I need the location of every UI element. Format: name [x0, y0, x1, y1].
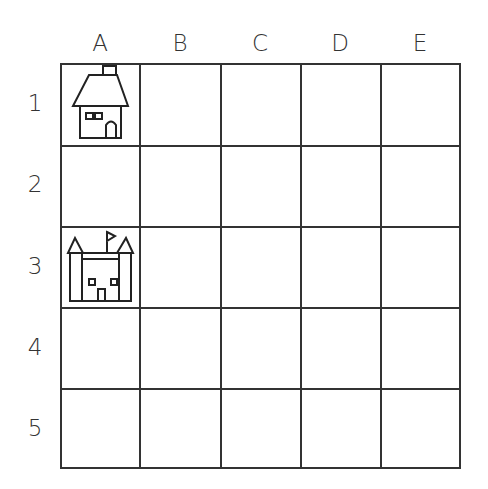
row-label-1: 1	[20, 90, 50, 116]
grid-line	[380, 65, 382, 467]
row-label-5: 5	[20, 415, 50, 441]
column-label-b: B	[140, 30, 220, 56]
row-label-4: 4	[20, 334, 50, 360]
grid-line	[300, 65, 302, 467]
column-label-d: D	[300, 30, 380, 56]
column-label-e: E	[380, 30, 460, 56]
grid-line	[62, 145, 459, 147]
grid-line	[62, 388, 459, 390]
column-label-c: C	[220, 30, 300, 56]
castle-icon	[60, 226, 140, 308]
row-label-3: 3	[20, 253, 50, 279]
column-label-a: A	[60, 30, 140, 56]
house-icon	[60, 63, 140, 145]
row-label-2: 2	[20, 171, 50, 197]
grid-line	[220, 65, 222, 467]
